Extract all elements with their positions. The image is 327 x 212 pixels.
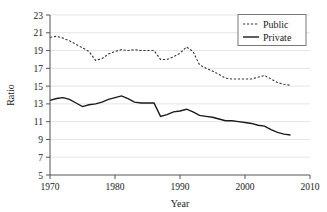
x-axis-title: Year bbox=[171, 198, 190, 209]
y-tick-label-11: 11 bbox=[34, 117, 43, 127]
ratio-line-chart: 23 21 19 17 15 13 11 9 7 5 1970 1980 199… bbox=[0, 0, 327, 212]
y-tick-label-17: 17 bbox=[34, 64, 44, 74]
y-tick-label-9: 9 bbox=[38, 135, 43, 145]
x-tick-label-1980: 1980 bbox=[106, 182, 125, 192]
y-tick-label-13: 13 bbox=[34, 99, 44, 109]
x-tick-label-2000: 2000 bbox=[236, 182, 255, 192]
x-tick-label-1990: 1990 bbox=[171, 182, 190, 192]
x-axis-ticks bbox=[50, 175, 310, 179]
legend-label-private: Private bbox=[263, 32, 292, 43]
series-line-private bbox=[50, 96, 291, 135]
chart-legend[interactable]: Public Private bbox=[238, 15, 306, 46]
y-tick-label-5: 5 bbox=[38, 171, 43, 181]
y-axis-tick-labels: 23 21 19 17 15 13 11 9 7 5 bbox=[34, 11, 44, 181]
x-tick-label-2010: 2010 bbox=[301, 182, 320, 192]
x-tick-label-1970: 1970 bbox=[41, 182, 60, 192]
x-axis-tick-labels: 1970 1980 1990 2000 2010 bbox=[41, 182, 320, 192]
y-axis-ticks bbox=[46, 15, 50, 175]
legend-label-public: Public bbox=[263, 19, 289, 30]
y-tick-label-15: 15 bbox=[34, 82, 44, 92]
y-tick-label-19: 19 bbox=[34, 46, 44, 56]
chart-svg: 23 21 19 17 15 13 11 9 7 5 1970 1980 199… bbox=[0, 0, 327, 212]
y-tick-label-7: 7 bbox=[38, 153, 43, 163]
y-tick-label-23: 23 bbox=[34, 11, 44, 21]
y-tick-label-21: 21 bbox=[34, 28, 44, 38]
y-axis-title: Ratio bbox=[5, 84, 16, 106]
